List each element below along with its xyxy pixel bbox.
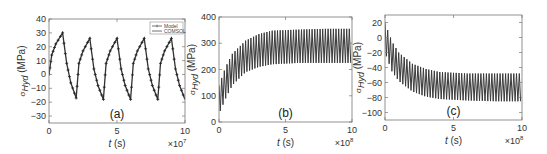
model-marker-icon [133,58,136,61]
y-tick-label: −100 [362,108,382,118]
y-tick-label: −10 [31,83,46,93]
y-tick-label: 0 [41,69,46,79]
y-axis-label: σHyd (MPa) [16,46,30,97]
model-marker-icon [148,73,151,76]
model-marker-icon [122,79,125,82]
x-tick-label: 5 [114,126,119,136]
x-tick-label: 10 [180,126,190,136]
x-axis-label: t (s) [108,138,125,149]
model-marker-icon [95,79,98,82]
panel-label: (b) [278,106,293,120]
model-marker-icon [94,73,97,76]
x-tick-label: 5 [451,123,456,133]
model-marker-icon [104,73,107,76]
model-marker-icon [132,62,135,65]
x-tick-label: 0 [216,125,221,135]
x-axis-label: t (s) [445,135,462,146]
panel-label: (a) [110,107,125,121]
model-marker-icon [160,58,163,61]
y-axis-label: σHyd (MPa) [186,44,200,95]
y-tick-label: 20 [372,18,382,28]
model-marker-icon [120,67,123,70]
model-marker-icon [106,58,109,61]
chart-panel-a: 403020100−10−20−300510×107t (s)σHyd (MPa… [16,14,190,149]
model-marker-icon [67,68,70,71]
model-marker-icon [147,67,150,70]
model-marker-icon [135,53,138,56]
model-marker-icon [144,47,147,50]
x-tick-label: 5 [283,125,288,135]
x-tick-label: 0 [46,126,51,136]
model-marker-icon [68,75,71,78]
y-tick-label: 200 [201,65,216,75]
x-axis-label: t (s) [277,137,294,148]
plot-area [48,31,186,101]
oscillation-line [219,29,351,111]
model-marker-icon [62,42,65,45]
model-marker-icon [158,73,161,76]
model-marker-icon [107,53,110,56]
y-tick-label: −80 [367,93,382,103]
x-multiplier: ×108 [505,135,524,146]
model-marker-icon [79,58,82,61]
y-tick-label: −20 [367,48,382,58]
x-tick-label: 10 [517,123,527,133]
model-marker-icon [118,58,121,61]
model-marker-icon [150,79,153,82]
chart-panel-c: 200−20−40−60−80−1000510×108t (s)σHyd (MP… [352,15,527,146]
plot-area [219,29,351,111]
x-tick-label: 10 [347,125,357,135]
model-marker-icon [76,85,79,88]
model-marker-icon [174,67,177,70]
y-tick-label: 0 [211,117,216,127]
model-marker-icon [77,62,80,65]
model-marker-icon [49,60,52,63]
model-marker-icon [131,73,134,76]
panel-label: (c) [447,104,461,118]
y-tick-label: 10 [36,56,46,66]
y-tick-label: 300 [201,38,216,48]
model-marker-icon [80,53,83,56]
model-marker-icon [177,79,180,82]
oscillation-line [385,23,521,102]
y-axis-label: σHyd (MPa) [352,42,366,93]
model-marker-icon [159,62,162,65]
y-tick-label: 40 [36,14,46,24]
x-multiplier: ×108 [335,137,354,148]
legend-label: COMSOL [164,28,186,34]
y-tick-label: 400 [201,12,216,22]
y-tick-label: −40 [367,63,382,73]
model-marker-icon [105,62,108,65]
chart-panel-b: 40030020010000510×108t (s)σHyd (MPa)(b) [186,12,357,148]
model-marker-icon [157,86,160,89]
model-marker-icon [171,47,174,50]
x-multiplier: ×107 [168,138,187,149]
model-marker-icon [145,58,148,61]
model-marker-icon [130,86,133,89]
model-marker-icon [173,58,176,61]
model-marker-icon [103,86,106,89]
y-tick-label: −30 [31,111,46,121]
model-marker-icon [64,52,67,55]
model-marker-icon [121,73,124,76]
y-tick-label: 0 [377,33,382,43]
model-marker-icon [77,73,80,76]
series-comsol-line [49,33,185,100]
y-tick-label: 20 [36,42,46,52]
y-tick-label: 100 [201,91,216,101]
y-tick-label: −20 [31,97,46,107]
model-marker-icon [162,53,165,56]
model-marker-icon [91,58,94,61]
x-tick-label: 0 [382,123,387,133]
model-marker-icon [90,47,93,50]
model-marker-icon [65,62,68,65]
plot-area [385,23,521,102]
model-marker-icon [75,97,78,100]
y-tick-label: 30 [36,28,46,38]
model-marker-icon [117,47,120,50]
figure: 403020100−10−20−300510×107t (s)σHyd (MPa… [0,0,547,154]
y-tick-label: −60 [367,78,382,88]
model-marker-icon [175,73,178,76]
model-marker-icon [92,67,95,70]
legend: ModelCOMSOL [150,22,186,34]
